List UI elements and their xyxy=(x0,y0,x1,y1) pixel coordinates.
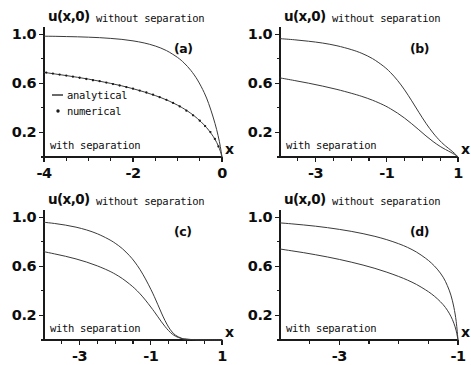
x-tick-label: -4 xyxy=(36,165,52,181)
x-tick-label: 1 xyxy=(453,165,463,181)
numerical-data-point xyxy=(145,91,147,93)
annotation-without-separation: without separation xyxy=(332,195,440,207)
panel-tag: (a) xyxy=(174,41,193,56)
y-axis-title: u(x,0) xyxy=(48,8,90,24)
numerical-data-point xyxy=(204,125,206,127)
x-tick-label: -1 xyxy=(143,348,159,364)
y-axis-title: u(x,0) xyxy=(48,191,90,207)
legend-numerical-label: numerical xyxy=(67,105,121,117)
annotation-with-separation: with separation xyxy=(286,322,376,334)
numerical-data-point xyxy=(105,81,107,83)
numerical-data-point xyxy=(172,102,174,104)
panel-b-plot: 1.00.60.2-3-11u(x,0)xwithout separationw… xyxy=(248,8,470,181)
y-tick-label: 0.2 xyxy=(248,307,272,323)
y-tick-label: 0.2 xyxy=(12,307,36,323)
chart-panel-b: 1.00.60.2-3-11u(x,0)xwithout separationw… xyxy=(236,0,471,182)
x-axis-title: x xyxy=(225,141,234,157)
annotation-without-separation: without separation xyxy=(332,12,440,24)
numerical-data-point xyxy=(209,131,211,133)
numerical-data-point xyxy=(78,77,80,79)
numerical-data-point xyxy=(112,83,114,85)
panel-d-svg: 1.00.60.2-3-1u(x,0)xwithout separationwi… xyxy=(236,183,471,365)
panel-a-plot: 1.00.60.2-4-20u(x,0)xwithout separationw… xyxy=(12,8,234,181)
chart-panel-c: 1.00.60.2-3-11u(x,0)xwithout separationw… xyxy=(0,183,235,365)
numerical-data-point xyxy=(139,89,141,91)
axis-lines xyxy=(280,210,458,340)
numerical-data-point xyxy=(52,72,54,74)
y-tick-label: 1.0 xyxy=(12,26,37,42)
y-tick-label: 1.0 xyxy=(248,26,273,42)
x-axis-title: x xyxy=(461,324,470,340)
x-axis-title: x xyxy=(225,324,234,340)
numerical-data-point xyxy=(98,80,100,82)
numerical-data-point xyxy=(185,109,187,111)
numerical-data-point xyxy=(199,120,201,122)
x-tick-label: -2 xyxy=(125,165,140,181)
x-axis-title: x xyxy=(461,141,470,157)
x-tick-label: -1 xyxy=(450,348,466,364)
panel-tag: (b) xyxy=(410,41,429,56)
numerical-data-point xyxy=(214,138,216,140)
x-tick-label: -3 xyxy=(72,348,87,364)
panel-a-svg: 1.00.60.2-4-20u(x,0)xwithout separationw… xyxy=(0,0,235,182)
numerical-data-point xyxy=(125,86,127,88)
y-tick-label: 1.0 xyxy=(12,209,37,225)
numerical-data-point xyxy=(165,99,167,101)
panel-d-plot: 1.00.60.2-3-1u(x,0)xwithout separationwi… xyxy=(248,191,470,364)
numerical-data-point xyxy=(45,71,47,73)
figure-container: 1.00.60.2-4-20u(x,0)xwithout separationw… xyxy=(0,0,471,365)
y-tick-label: 1.0 xyxy=(248,209,273,225)
y-tick-label: 0.6 xyxy=(248,258,273,274)
y-tick-label: 0.2 xyxy=(12,124,36,140)
numerical-data-point xyxy=(65,74,67,76)
axis-lines xyxy=(44,210,222,340)
x-tick-label: -1 xyxy=(379,165,395,181)
annotation-with-separation: with separation xyxy=(286,139,376,151)
chart-panel-a: 1.00.60.2-4-20u(x,0)xwithout separationw… xyxy=(0,0,235,182)
numerical-data-point xyxy=(159,96,161,98)
chart-panel-d: 1.00.60.2-3-1u(x,0)xwithout separationwi… xyxy=(236,183,471,365)
x-tick-label: -3 xyxy=(332,348,347,364)
x-tick-label: 1 xyxy=(217,348,227,364)
y-tick-label: 0.6 xyxy=(12,75,37,91)
numerical-data-point xyxy=(58,73,60,75)
numerical-data-point xyxy=(179,105,181,107)
panel-c-svg: 1.00.60.2-3-11u(x,0)xwithout separationw… xyxy=(0,183,235,365)
legend-numerical-dot xyxy=(56,109,59,112)
y-tick-label: 0.6 xyxy=(12,258,37,274)
y-tick-label: 0.6 xyxy=(248,75,273,91)
numerical-data-point xyxy=(92,79,94,81)
numerical-data-point xyxy=(152,94,154,96)
numerical-data-point xyxy=(132,88,134,90)
panel-tag: (d) xyxy=(410,224,429,239)
x-tick-label: 0 xyxy=(217,165,227,181)
axis-lines xyxy=(280,27,458,157)
panel-c-plot: 1.00.60.2-3-11u(x,0)xwithout separationw… xyxy=(12,191,234,364)
numerical-data-point xyxy=(85,78,87,80)
numerical-data-point xyxy=(72,76,74,78)
x-tick-label: -3 xyxy=(308,165,323,181)
panel-tag: (c) xyxy=(174,224,192,239)
y-axis-title: u(x,0) xyxy=(284,8,326,24)
numerical-data-point xyxy=(119,84,121,86)
numerical-data-point xyxy=(217,145,219,147)
annotation-with-separation: with separation xyxy=(50,322,140,334)
panel-b-svg: 1.00.60.2-3-11u(x,0)xwithout separationw… xyxy=(236,0,471,182)
annotation-without-separation: without separation xyxy=(96,12,204,24)
annotation-with-separation: with separation xyxy=(50,139,140,151)
y-tick-label: 0.2 xyxy=(248,124,272,140)
numerical-data-point xyxy=(192,114,194,116)
y-axis-title: u(x,0) xyxy=(284,191,326,207)
legend-analytical-label: analytical xyxy=(67,89,127,101)
annotation-without-separation: without separation xyxy=(96,195,204,207)
